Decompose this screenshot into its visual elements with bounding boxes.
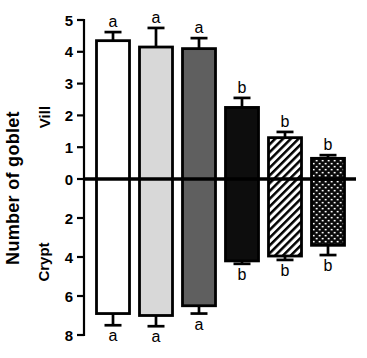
goblet-cell-bar-chart: aaaaaabbbbbb 5432102468 Number of goblet…: [0, 0, 367, 358]
bar-rect-white: [97, 41, 130, 314]
tick-label: 4: [65, 249, 74, 266]
significance-letter-crypt: b: [238, 266, 247, 283]
significance-letter-vill: b: [281, 113, 290, 130]
tick-label: 1: [65, 139, 73, 156]
significance-letter-vill: b: [324, 136, 333, 153]
significance-letter-vill: a: [109, 13, 118, 30]
significance-letter-crypt: a: [109, 327, 118, 344]
bar-rect-dark-gray: [183, 49, 216, 306]
chart-canvas: aaaaaabbbbbb 5432102468 Number of goblet…: [0, 0, 367, 358]
bars-layer: aaaaaabbbbbb: [97, 9, 345, 345]
bar-stipple-dots: bb: [312, 136, 345, 274]
lower-section-label: Crypt: [35, 242, 52, 281]
significance-letter-crypt: b: [281, 262, 290, 279]
bar-rect-diagonal-hatch: [269, 138, 302, 256]
tick-label: 2: [65, 107, 73, 124]
tick-label: 2: [65, 210, 73, 227]
bar-rect-black: [226, 107, 259, 260]
bar-dark-gray: aa: [183, 19, 216, 332]
significance-letter-crypt: b: [324, 257, 333, 274]
tick-label: 6: [65, 288, 73, 305]
bar-black: bb: [226, 79, 259, 283]
tick-label: 8: [65, 327, 73, 344]
bar-rect-stipple-dots: [312, 158, 345, 245]
significance-letter-vill: a: [152, 9, 161, 26]
tick-label: 4: [65, 43, 74, 60]
bar-rect-light-gray: [140, 47, 173, 315]
significance-letter-crypt: a: [152, 328, 161, 345]
significance-letter-crypt: a: [195, 316, 204, 333]
upper-section-label: Vill: [36, 106, 53, 128]
significance-letter-vill: b: [238, 79, 247, 96]
tick-label: 3: [65, 75, 73, 92]
significance-letter-vill: a: [195, 19, 204, 36]
y-axis-title: Number of goblet: [3, 111, 23, 265]
tick-label: 5: [65, 12, 73, 29]
bar-light-gray: aa: [140, 9, 173, 345]
tick-label: 0: [65, 171, 73, 188]
bar-diagonal-hatch: bb: [269, 113, 302, 279]
